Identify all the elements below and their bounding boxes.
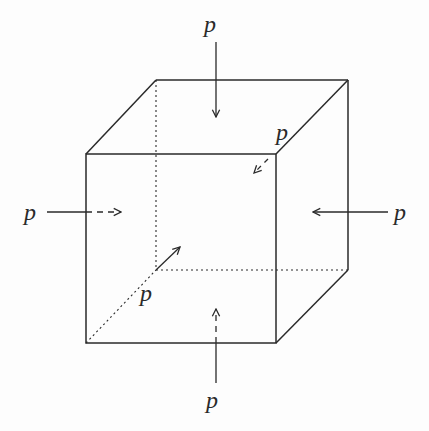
cube-diagram: p p p p p p: [0, 0, 429, 431]
cube-edge-bottom-right: [276, 270, 348, 343]
pressure-arrow-back: [254, 159, 268, 173]
cube: [86, 80, 348, 343]
label-top-p: p: [202, 11, 216, 37]
cube-front-face: [86, 154, 276, 343]
label-right-p: p: [392, 199, 406, 225]
figure-canvas: p p p p p p: [0, 0, 429, 431]
cube-edge-top-left: [86, 80, 156, 154]
label-back-p: p: [274, 119, 288, 145]
label-left-p: p: [22, 199, 36, 225]
label-front-p: p: [138, 280, 152, 306]
label-bottom-p: p: [204, 387, 218, 413]
pressure-arrow-front: [156, 247, 180, 270]
